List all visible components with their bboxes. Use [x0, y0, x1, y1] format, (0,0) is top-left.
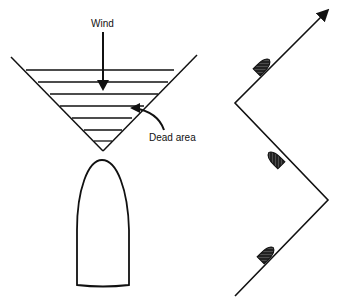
wind-arrow-icon	[97, 32, 109, 91]
boat-icon-top	[253, 56, 273, 76]
diagram-canvas	[0, 0, 345, 307]
boat-icon-bottom	[257, 244, 277, 264]
tacking-course-path	[235, 11, 328, 296]
wind-label: Wind	[91, 18, 114, 29]
boat-hull-outline	[77, 160, 129, 287]
dead-area-label: Dead area	[149, 132, 196, 143]
